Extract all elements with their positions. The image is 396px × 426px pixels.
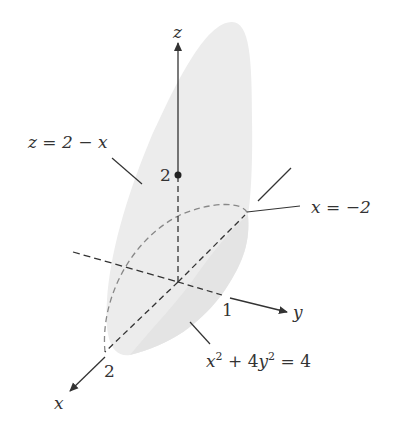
x-neg2-leader <box>247 206 300 212</box>
y-axis-label: y <box>292 302 303 322</box>
z-axis-label: z <box>172 22 183 42</box>
diagram-canvas: z x y 2 2 1 z = 2 − x x = −2 x2 + 4y2 = … <box>0 0 396 426</box>
cylinder-equation-label: x2 + 4y2 = 4 <box>206 350 311 371</box>
z-tick-point <box>175 172 182 179</box>
plane-edge-leader <box>258 168 291 201</box>
x-axis <box>70 357 105 391</box>
cylinder-leader <box>190 322 210 344</box>
z-tick-label: 2 <box>160 165 171 185</box>
plane-leader <box>112 158 142 184</box>
x-equals-neg2-label: x = −2 <box>311 197 371 217</box>
x-axis-label: x <box>54 393 64 413</box>
x-tick-label: 2 <box>104 361 115 381</box>
y-axis <box>230 298 287 312</box>
y-tick-label: 1 <box>222 300 233 320</box>
plane-equation-label: z = 2 − x <box>27 132 108 152</box>
